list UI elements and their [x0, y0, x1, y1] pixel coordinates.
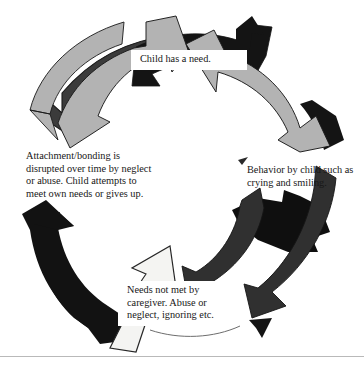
step-label-needs-not-met: Needs not met by caregiver. Abuse or neg… — [118, 281, 237, 326]
arrow-edge-highlight — [150, 326, 240, 336]
footer-divider — [0, 356, 364, 357]
step-label-child-has-a-need: Child has a need. — [131, 50, 247, 70]
arrow-gray-upper-left — [30, 16, 188, 148]
step-label-attachment-bonding-disrupted: Attachment/bonding is disrupted over tim… — [26, 150, 157, 201]
arrow-black-bottom-right — [249, 318, 272, 338]
step-label-behavior-by-child: Behavior by child such as crying and smi… — [247, 164, 359, 189]
arrow-black-lower-left — [22, 200, 130, 346]
cycle-diagram: Child has a need. Behavior by child such… — [0, 0, 364, 367]
